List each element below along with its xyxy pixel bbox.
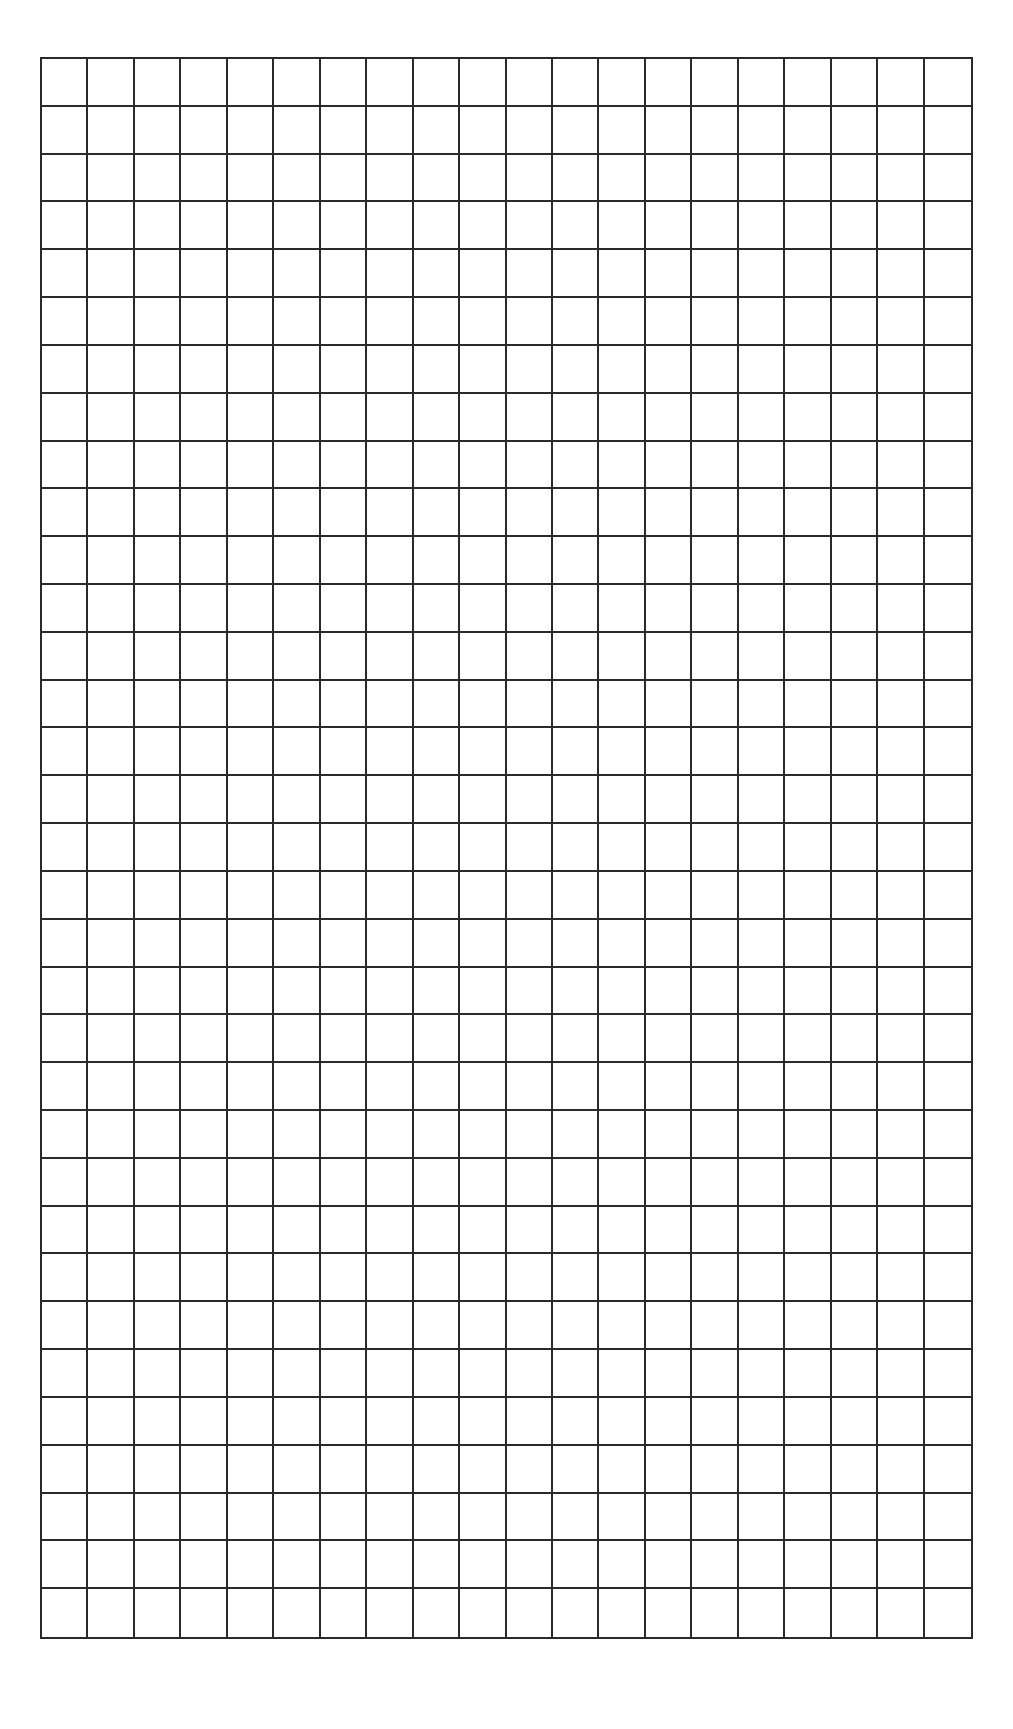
grid-cell (181, 1350, 227, 1398)
grid-cell (739, 1111, 785, 1159)
grid-cell (785, 1350, 831, 1398)
grid-cell (739, 394, 785, 442)
grid-cell (321, 1589, 367, 1637)
grid-cell (367, 824, 413, 872)
grid-cell (553, 776, 599, 824)
grid-cell (599, 489, 645, 537)
grid-cell (274, 537, 320, 585)
grid-cell (553, 824, 599, 872)
grid-cell (414, 1541, 460, 1589)
grid-cell (228, 1350, 274, 1398)
grid-cell (228, 681, 274, 729)
grid-cell (181, 1111, 227, 1159)
grid-cell (88, 1350, 134, 1398)
grid-cell (367, 1111, 413, 1159)
grid-cell (274, 298, 320, 346)
grid-cell (460, 107, 506, 155)
grid-cell (460, 155, 506, 203)
grid-cell (646, 1350, 692, 1398)
grid-cell (460, 1350, 506, 1398)
grid-cell (42, 633, 88, 681)
grid-cell (414, 1350, 460, 1398)
grid-cell (181, 1254, 227, 1302)
grid-cell (460, 1063, 506, 1111)
grid-cell (460, 920, 506, 968)
grid-cell (135, 920, 181, 968)
grid-cell (88, 633, 134, 681)
grid-cell (367, 250, 413, 298)
grid-cell (88, 1207, 134, 1255)
grid-cell (42, 968, 88, 1016)
grid-cell (42, 1111, 88, 1159)
grid-cell (507, 1015, 553, 1063)
grid-cell (599, 346, 645, 394)
grid-cell (646, 298, 692, 346)
grid-cell (925, 1015, 971, 1063)
grid-cell (321, 728, 367, 776)
grid-cell (274, 1063, 320, 1111)
grid-cell (785, 202, 831, 250)
grid-cell (832, 824, 878, 872)
grid-cell (692, 776, 738, 824)
grid-cell (274, 968, 320, 1016)
grid-cell (925, 59, 971, 107)
grid-cell (88, 1494, 134, 1542)
grid-cell (414, 537, 460, 585)
grid-cell (88, 681, 134, 729)
grid-cell (367, 202, 413, 250)
grid-cell (646, 155, 692, 203)
grid-cell (878, 1015, 924, 1063)
grid-cell (274, 1398, 320, 1446)
grid-cell (460, 633, 506, 681)
grid-cell (42, 1589, 88, 1637)
grid-cell (832, 537, 878, 585)
grid-cell (646, 489, 692, 537)
grid-cell (878, 920, 924, 968)
grid-cell (692, 346, 738, 394)
grid-cell (832, 1207, 878, 1255)
grid-cell (925, 968, 971, 1016)
grid-cell (228, 155, 274, 203)
grid-cell (692, 1302, 738, 1350)
grid-cell (181, 1063, 227, 1111)
grid-cell (646, 1541, 692, 1589)
grid-cell (785, 585, 831, 633)
grid-cell (785, 59, 831, 107)
grid-cell (88, 59, 134, 107)
grid-cell (739, 346, 785, 394)
grid-cell (832, 1254, 878, 1302)
grid-cell (367, 394, 413, 442)
grid-cell (692, 1494, 738, 1542)
grid-cell (88, 1254, 134, 1302)
grid-cell (832, 250, 878, 298)
grid-cell (739, 872, 785, 920)
grid-cell (42, 346, 88, 394)
grid-cell (878, 202, 924, 250)
grid-cell (274, 1207, 320, 1255)
grid-cell (925, 585, 971, 633)
grid-cell (228, 1015, 274, 1063)
grid-cell (88, 346, 134, 394)
grid-cell (599, 1207, 645, 1255)
grid-cell (414, 489, 460, 537)
grid-cell (228, 1541, 274, 1589)
grid-cell (925, 1063, 971, 1111)
grid-cell (646, 59, 692, 107)
grid-cell (460, 1015, 506, 1063)
grid-cell (925, 824, 971, 872)
grid-cell (42, 107, 88, 155)
grid-cell (785, 681, 831, 729)
grid-cell (88, 728, 134, 776)
grid-cell (367, 1494, 413, 1542)
grid-cell (274, 394, 320, 442)
grid-cell (599, 920, 645, 968)
grid-cell (553, 681, 599, 729)
grid-cell (460, 394, 506, 442)
grid-cell (739, 728, 785, 776)
grid-cell (553, 633, 599, 681)
grid-cell (42, 728, 88, 776)
grid-cell (507, 681, 553, 729)
grid-cell (88, 489, 134, 537)
grid-cell (460, 298, 506, 346)
grid-cell (925, 1589, 971, 1637)
